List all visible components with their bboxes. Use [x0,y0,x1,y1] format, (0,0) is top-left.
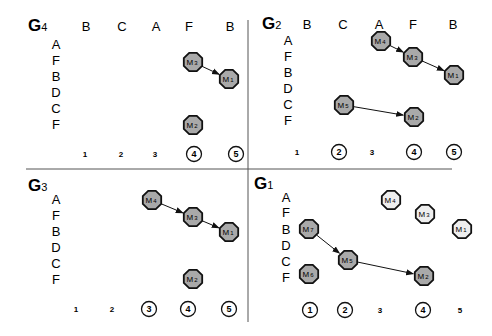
column-header: B [303,17,312,32]
node-label: M6 [302,270,314,279]
step-number: 5 [233,149,238,159]
node-label: M2 [407,113,419,122]
step-number: 2 [336,147,341,157]
column-header: B [226,19,235,34]
row-label: F [52,53,60,68]
column-header: A [375,17,384,32]
node-m7: M7 [300,220,318,238]
row-label: B [282,222,291,237]
column-header: C [117,19,126,34]
node-m2: M2 [184,270,202,288]
row-label: D [51,85,60,100]
node-m3: M3 [404,48,422,66]
row-label: D [283,81,292,96]
node-m3: M3 [184,208,202,226]
edge-m5-m2 [358,262,413,274]
node-label: M3 [186,58,198,67]
node-m4: M4 [143,191,161,209]
node-label: M1 [222,228,234,237]
edge-m4-m3 [161,204,183,213]
step-number: 4 [185,304,190,314]
node-label: M4 [384,196,396,205]
step-number: 1 [307,305,312,315]
panel-g2: G2BCAFBAFBDCF12345M4M3M1M5M2 [262,14,463,160]
step-number: 1 [83,150,88,159]
row-label: B [284,65,293,80]
row-label: A [52,37,61,52]
node-m4: M4 [382,191,400,209]
step-number: 1 [295,148,300,157]
column-header: F [409,17,417,32]
node-label: M1 [455,225,467,234]
row-label: F [282,270,290,285]
panel-g4: G4BCAFBAFBDCF12345M3M1M2 [28,16,244,162]
step-number: 3 [378,306,383,315]
step-number: 2 [119,150,124,159]
row-label: A [52,192,61,207]
node-label: M3 [418,210,430,219]
node-m6: M6 [300,265,318,283]
node-label: M5 [341,256,353,265]
node-label: M2 [186,121,198,130]
row-label: F [52,117,60,132]
node-label: M1 [222,75,234,84]
panel-g1: G1AFBDCF12345M4M3M1M7M5M6M2 [254,174,471,318]
panel-title: G3 [28,176,47,195]
node-m1: M1 [453,220,471,238]
panel-title: G4 [28,16,47,35]
node-m5: M5 [335,96,353,114]
node-label: M4 [374,37,386,46]
row-label: C [51,256,60,271]
row-label: C [281,254,290,269]
node-label: M1 [447,71,459,80]
row-label: F [52,272,60,287]
step-number: 2 [110,305,115,314]
node-label: M3 [186,213,198,222]
node-m2: M2 [415,267,433,285]
row-label: C [51,101,60,116]
row-label: C [283,97,292,112]
row-label: A [284,33,293,48]
edge-m3-m1 [422,61,444,71]
edge-m3-m1 [202,221,219,228]
row-label: F [52,208,60,223]
edge-m7-m5 [317,235,340,253]
row-label: D [51,240,60,255]
panel-title: G1 [254,174,273,193]
step-number: 5 [226,304,231,314]
row-label: F [284,49,292,64]
node-label: M7 [302,225,314,234]
node-label: M5 [337,101,349,110]
quadrant-dividers [26,20,452,322]
step-number: 5 [451,147,456,157]
node-m3: M3 [184,53,202,71]
edge-m4-m3 [390,46,403,53]
node-label: M4 [145,196,157,205]
row-label: F [284,113,292,128]
node-m2: M2 [405,108,423,126]
node-m3: M3 [416,205,434,223]
row-label: B [52,224,61,239]
node-m1: M1 [220,223,238,241]
row-label: F [282,205,290,220]
column-header: F [185,19,193,34]
panel-title: G2 [262,14,281,33]
step-number: 5 [458,306,463,315]
node-label: M2 [186,275,198,284]
step-number: 1 [74,305,79,314]
node-m1: M1 [220,70,238,88]
step-number: 3 [370,148,375,157]
step-number: 4 [411,147,416,157]
row-label: D [281,238,290,253]
row-label: B [52,69,61,84]
node-m2: M2 [184,116,202,134]
column-header: A [152,19,161,34]
node-label: M2 [417,272,429,281]
step-number: 3 [146,304,151,314]
node-m4: M4 [372,32,390,50]
step-number: 4 [191,149,196,159]
node-m1: M1 [445,66,463,84]
edge-m3-m1 [202,66,219,74]
panel-g3: G3AFBDCF12345M4M3M1M2 [28,176,238,317]
node-m5: M5 [339,251,357,269]
